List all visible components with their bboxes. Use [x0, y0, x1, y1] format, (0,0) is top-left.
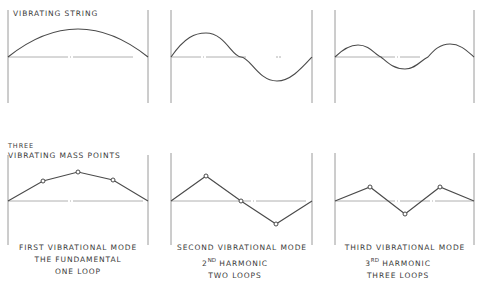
- caption-mode-2-subtitle: 2nd Harmonic: [148, 254, 322, 270]
- panel-3-string: [335, 10, 474, 103]
- panel-1-masses: [8, 155, 148, 245]
- panel-1-string: [8, 10, 148, 103]
- mass-point-1: [368, 185, 372, 189]
- caption-mode-3-title: Third Vibrational Mode: [325, 242, 483, 254]
- mode-1-polyline: [8, 172, 148, 201]
- caption-mode-2-loops: Two Loops: [148, 270, 322, 282]
- vibrating-mass-points-label: Vibrating Mass Points: [8, 151, 121, 161]
- panel-2-string: [171, 10, 312, 103]
- fundamental-wave: [8, 29, 148, 57]
- caption-mode-1: First Vibrational Mode The Fundamental O…: [0, 242, 158, 278]
- harmonic-text: Harmonic: [379, 259, 431, 268]
- mass-point-1: [41, 179, 45, 183]
- vibrating-string-label: Vibrating String: [13, 9, 98, 19]
- caption-mode-1-loops: One Loop: [0, 266, 158, 278]
- caption-mode-3: Third Vibrational Mode 3rd Harmonic Thre…: [325, 242, 483, 282]
- caption-mode-3-subtitle: 3rd Harmonic: [311, 254, 483, 270]
- harmonic-suffix: nd: [208, 257, 216, 263]
- mass-point-3: [438, 185, 442, 189]
- mass-point-3: [111, 178, 115, 182]
- panel-2-masses: [171, 153, 312, 245]
- vibration-modes-diagram: [0, 0, 483, 282]
- mass-point-2: [239, 199, 243, 203]
- harmonic-text: Harmonic: [216, 259, 268, 268]
- caption-mode-3-loops: Three Loops: [311, 270, 483, 282]
- panel-3-masses: [335, 153, 474, 245]
- harmonic-suffix: rd: [371, 257, 379, 263]
- mass-point-1: [204, 174, 208, 178]
- caption-mode-1-subtitle: The Fundamental: [0, 254, 158, 266]
- caption-mode-2: Second Vibrational Mode 2nd Harmonic Two…: [162, 242, 322, 282]
- mass-point-3: [274, 222, 278, 226]
- caption-mode-2-title: Second Vibrational Mode: [162, 242, 322, 254]
- three-label: Three: [8, 141, 34, 151]
- mass-point-2: [76, 170, 80, 174]
- mass-point-2: [403, 212, 407, 216]
- caption-mode-1-title: First Vibrational Mode: [0, 242, 158, 254]
